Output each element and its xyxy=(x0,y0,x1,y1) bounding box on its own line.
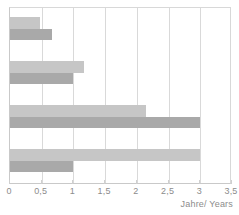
x-tick-label: 0,5 xyxy=(34,186,47,196)
gridline xyxy=(232,8,233,183)
x-tick-label: 2,5 xyxy=(161,186,174,196)
bar-group-3-light xyxy=(10,105,146,117)
x-tick-mark xyxy=(136,180,137,184)
bar-group-3-dark xyxy=(10,117,200,129)
bar-group-1-light xyxy=(10,17,40,29)
plot-area xyxy=(9,7,231,184)
x-tick-mark xyxy=(168,180,169,184)
x-tick-mark xyxy=(231,180,232,184)
x-tick-label: 1,5 xyxy=(98,186,111,196)
x-tick-label: 0 xyxy=(6,186,11,196)
bar-group-2-dark xyxy=(10,73,73,85)
x-tick-label: 3 xyxy=(197,186,202,196)
x-tick-mark xyxy=(72,180,73,184)
x-axis: 00,511,522,533,5 xyxy=(0,184,239,198)
x-tick-mark xyxy=(9,180,10,184)
bar-chart: 00,511,522,533,5 Jahre/ Years xyxy=(0,0,239,215)
x-tick-label: 1 xyxy=(70,186,75,196)
bar-group-4-dark xyxy=(10,161,73,173)
x-tick-label: 2 xyxy=(133,186,138,196)
x-tick-label: 3,5 xyxy=(224,186,237,196)
x-tick-mark xyxy=(104,180,105,184)
bar-group-2-light xyxy=(10,61,84,73)
x-axis-title: Jahre/ Years xyxy=(181,199,233,209)
x-tick-mark xyxy=(41,180,42,184)
bars-layer xyxy=(10,8,230,183)
bar-group-4-light xyxy=(10,149,200,161)
bar-group-1-dark xyxy=(10,29,52,41)
x-tick-mark xyxy=(199,180,200,184)
